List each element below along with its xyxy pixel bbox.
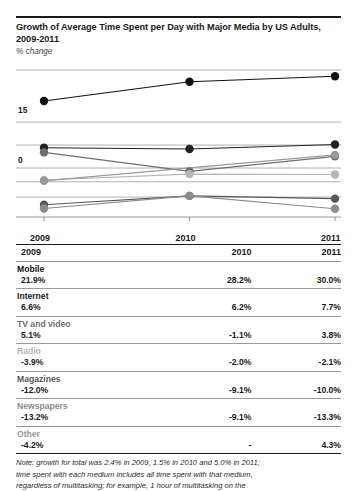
- cell-value: -4.2%: [16, 440, 155, 452]
- cell-value: -1.1%: [155, 330, 251, 342]
- series-label-newspapers: Newspapers: [16, 401, 341, 412]
- chart-canvas: [16, 61, 341, 243]
- cell-value: -13.3%: [251, 412, 341, 424]
- table-col-header-2011: 2011: [251, 247, 341, 259]
- cell-value: -13.2%: [16, 412, 155, 424]
- cell-value: 5.1%: [16, 330, 155, 342]
- series-label-internet: Internet: [16, 291, 341, 302]
- cell-value: -3.9%: [16, 357, 155, 369]
- data-point: [331, 140, 339, 148]
- table-row: TV and video5.1%-1.1%3.8%: [16, 317, 341, 345]
- x-tick-2011: 2011: [321, 233, 341, 243]
- cell-value: -2.1%: [251, 357, 341, 369]
- table-row: Magazines-12.0%-9.1%-10.0%: [16, 372, 341, 400]
- data-point: [185, 78, 193, 86]
- x-tick-2010: 2010: [176, 233, 196, 243]
- series-label-magazines: Magazines: [16, 374, 341, 385]
- data-point: [40, 148, 48, 156]
- top-divider: [16, 16, 341, 18]
- cell-value: -: [155, 440, 251, 452]
- table-row: Mobile21.9%28.2%30.0%: [16, 262, 341, 290]
- cell-value: -9.1%: [155, 412, 251, 424]
- note-line-3: regardless of multitasking; for example,…: [16, 480, 341, 491]
- chart-subtitle: % change: [16, 47, 341, 57]
- y-tick-0: 0: [18, 155, 23, 165]
- cell-value: 21.9%: [16, 275, 155, 287]
- cell-value: -10.0%: [251, 385, 341, 397]
- cell-value: 6.6%: [16, 302, 155, 314]
- data-table: 200920102011Mobile21.9%28.2%30.0%Interne…: [16, 244, 341, 454]
- x-tick-2009: 2009: [30, 233, 50, 243]
- data-point: [331, 170, 339, 178]
- data-point: [185, 192, 193, 200]
- chart-note: Note: growth for total was 2.4% in 2009,…: [16, 457, 341, 491]
- data-point: [185, 145, 193, 153]
- cell-value: 28.2%: [155, 275, 251, 287]
- cell-value: -12.0%: [16, 385, 155, 397]
- data-point: [331, 205, 339, 213]
- data-point: [331, 195, 339, 203]
- cell-value: 4.3%: [251, 440, 341, 452]
- table-row: Internet6.6%6.2%7.7%: [16, 289, 341, 317]
- table-col-header-2010: 2010: [155, 247, 251, 259]
- table-header-row: 200920102011: [16, 245, 341, 262]
- note-line-1: Note: growth for total was 2.4% in 2009,…: [16, 457, 341, 468]
- series-label-other: Other: [16, 429, 341, 440]
- series-label-tv-and-video: TV and video: [16, 319, 341, 330]
- series-label-radio: Radio: [16, 346, 341, 357]
- table-col-header-2009: 2009: [16, 247, 155, 259]
- data-point: [331, 72, 339, 80]
- note-line-2: time spent with each medium includes all…: [16, 469, 341, 480]
- line-chart: 15 0 2009 2010 2011: [16, 61, 341, 243]
- cell-value: -9.1%: [155, 385, 251, 397]
- chart-card: Growth of Average Time Spent per Day wit…: [0, 16, 357, 472]
- data-point: [185, 170, 193, 178]
- table-row: Other-4.2%-4.3%: [16, 427, 341, 455]
- cell-value: 3.8%: [251, 330, 341, 342]
- data-point: [331, 151, 339, 159]
- data-point: [40, 97, 48, 105]
- data-point: [40, 204, 48, 212]
- cell-value: -2.0%: [155, 357, 251, 369]
- cell-value: 6.2%: [155, 302, 251, 314]
- table-row: Radio-3.9%-2.0%-2.1%: [16, 344, 341, 372]
- cell-value: 30.0%: [251, 275, 341, 287]
- series-label-mobile: Mobile: [16, 264, 341, 275]
- page-title: Growth of Average Time Spent per Day wit…: [16, 22, 341, 45]
- table-row: Newspapers-13.2%-9.1%-13.3%: [16, 399, 341, 427]
- data-point: [40, 177, 48, 185]
- cell-value: 7.7%: [251, 302, 341, 314]
- y-tick-15: 15: [18, 105, 27, 115]
